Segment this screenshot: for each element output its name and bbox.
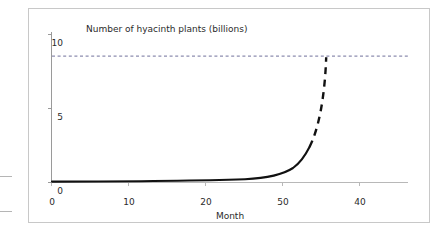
chart-figure-frame: Number of hyacinth plants (billions) 10 … xyxy=(28,8,430,223)
y-tick-label-5: 5 xyxy=(37,113,63,122)
x-axis-title: Month xyxy=(29,212,431,221)
y-tick-label-0: 0 xyxy=(37,187,63,196)
x-tick-label-30: 50 xyxy=(271,198,295,207)
x-tick-label-20: 20 xyxy=(194,198,218,207)
left-edge-stub xyxy=(0,176,12,212)
x-tick-label-40: 40 xyxy=(348,198,372,207)
y-tick-label-10: 10 xyxy=(37,39,63,48)
chart-title: Number of hyacinth plants (billions) xyxy=(86,25,248,34)
x-tick-label-10: 10 xyxy=(117,198,141,207)
x-tick-label-0: 0 xyxy=(40,198,64,207)
